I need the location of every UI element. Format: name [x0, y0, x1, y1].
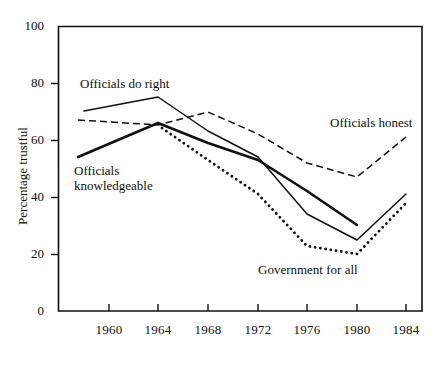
- y-axis-title: Percentage trustful: [15, 91, 31, 261]
- x-tick-label-1964: 1964: [135, 322, 181, 338]
- series-label-officials-do-right: Officials do right: [80, 76, 169, 91]
- y-tick-label-0: 0: [14, 303, 44, 319]
- line-chart-plot: [0, 0, 447, 369]
- y-axis-ticks: [51, 84, 58, 255]
- y-tick-label-40: 40: [14, 189, 44, 205]
- series-label-officials-honest: Officials honest: [330, 115, 412, 130]
- y-tick-label-100: 100: [14, 18, 44, 34]
- x-tick-label-1984: 1984: [383, 322, 429, 338]
- x-tick-label-1976: 1976: [284, 322, 330, 338]
- x-axis-ticks: [109, 304, 406, 311]
- x-tick-label-1968: 1968: [185, 322, 231, 338]
- series-label-government-for-all: Government for all: [258, 262, 358, 277]
- x-tick-label-1960: 1960: [86, 322, 132, 338]
- series-label-officials-knowledgeable-line1: Officials: [74, 163, 153, 178]
- series-label-officials-knowledgeable-line2: knowledgeable: [74, 178, 153, 193]
- chart-figure: Percentage trustful 100 80 60 40 20 0 19…: [0, 0, 447, 369]
- y-tick-label-60: 60: [14, 132, 44, 148]
- series-label-officials-knowledgeable: Officials knowledgeable: [74, 163, 153, 194]
- x-tick-label-1980: 1980: [334, 322, 380, 338]
- y-tick-label-80: 80: [14, 75, 44, 91]
- y-tick-label-20: 20: [14, 246, 44, 262]
- x-tick-label-1972: 1972: [235, 322, 281, 338]
- series-government-for-all: [162, 128, 406, 254]
